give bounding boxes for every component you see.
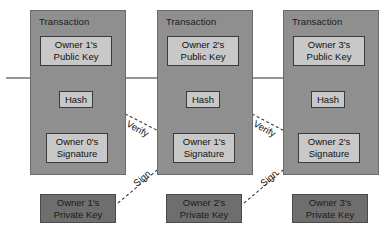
public-key-line2: Public Key xyxy=(54,51,99,63)
transaction-title-2: Transaction xyxy=(166,16,216,27)
hash-box-3[interactable]: Hash xyxy=(311,91,345,108)
private-key-box-2[interactable]: Owner 2's Private Key xyxy=(166,194,242,223)
public-key-box-2[interactable]: Owner 2's Public Key xyxy=(167,36,239,66)
public-key-line2: Public Key xyxy=(307,51,352,63)
transaction-title-1: Transaction xyxy=(39,16,89,27)
private-key-line1: Owner 1's xyxy=(57,197,99,209)
private-key-line2: Private Key xyxy=(306,209,355,221)
signature-box-3[interactable]: Owner 2's Signature xyxy=(298,133,360,163)
hash-label: Hash xyxy=(65,94,87,105)
signature-line2: Signature xyxy=(57,148,98,160)
transaction-title-3: Transaction xyxy=(292,16,342,27)
hash-label: Hash xyxy=(317,94,339,105)
signature-line1: Owner 0's xyxy=(56,136,98,148)
signature-box-1[interactable]: Owner 0's Signature xyxy=(46,133,108,163)
public-key-line1: Owner 3's xyxy=(308,39,350,51)
private-key-line1: Owner 2's xyxy=(183,197,225,209)
private-key-box-3[interactable]: Owner 3's Private Key xyxy=(292,194,368,223)
public-key-line1: Owner 2's xyxy=(182,39,224,51)
public-key-line2: Public Key xyxy=(181,51,226,63)
hash-box-2[interactable]: Hash xyxy=(186,91,220,108)
signature-line1: Owner 2's xyxy=(308,136,350,148)
private-key-line2: Private Key xyxy=(54,209,103,221)
public-key-box-1[interactable]: Owner 1's Public Key xyxy=(40,36,112,66)
private-key-line2: Private Key xyxy=(180,209,229,221)
signature-line2: Signature xyxy=(309,148,350,160)
hash-label: Hash xyxy=(192,94,214,105)
diagram-canvas: Transaction Owner 1's Public Key Hash Ow… xyxy=(0,0,386,231)
signature-box-2[interactable]: Owner 1's Signature xyxy=(173,133,235,163)
public-key-line1: Owner 1's xyxy=(55,39,97,51)
signature-line2: Signature xyxy=(184,148,225,160)
private-key-box-1[interactable]: Owner 1's Private Key xyxy=(40,194,116,223)
private-key-line1: Owner 3's xyxy=(309,197,351,209)
public-key-box-3[interactable]: Owner 3's Public Key xyxy=(293,36,365,66)
signature-line1: Owner 1's xyxy=(183,136,225,148)
hash-box-1[interactable]: Hash xyxy=(59,91,93,108)
